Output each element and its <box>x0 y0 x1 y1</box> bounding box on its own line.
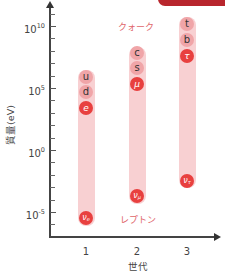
x-tick-label-2: 2 <box>130 246 144 257</box>
y-minor-tick <box>50 175 55 176</box>
x-axis-title: 世代 <box>128 259 148 273</box>
y-minor-tick <box>50 38 55 39</box>
y-axis-arrow-icon <box>46 1 54 8</box>
y-axis-title: 質量(eV) <box>3 102 17 148</box>
x-tick-label-1: 1 <box>79 246 93 257</box>
x-tick-label-3: 3 <box>180 246 194 257</box>
y-major-tick <box>50 150 56 151</box>
y-minor-tick <box>50 14 55 15</box>
y-minor-tick <box>50 76 55 77</box>
y-minor-tick <box>50 51 55 52</box>
particle-electron: e <box>79 101 93 115</box>
lepton-group-label: レプトン <box>120 213 156 226</box>
y-major-tick <box>50 26 56 27</box>
quark-group-label: クォーク <box>118 20 154 33</box>
y-minor-tick <box>50 187 55 188</box>
y-minor-tick <box>50 224 55 225</box>
particle-down-quark: d <box>79 85 93 99</box>
particle-charm-quark: c <box>130 46 144 60</box>
particle-tau: τ <box>180 49 194 63</box>
particle-strange-quark: s <box>130 61 144 75</box>
corner-title-badge <box>158 0 225 6</box>
x-axis-arrow-icon <box>214 233 221 241</box>
y-minor-tick <box>50 162 55 163</box>
particle-tau-neutrino: ντ <box>180 174 194 188</box>
y-minor-tick <box>50 63 55 64</box>
particle-muon-neutrino: νμ <box>130 189 144 203</box>
y-minor-tick <box>50 113 55 114</box>
y-minor-tick <box>50 100 55 101</box>
y-tick-label-1e-5: 10-5 <box>26 207 45 221</box>
particle-top-quark: t <box>180 17 194 31</box>
y-tick-label-1e0: 100 <box>28 145 45 159</box>
particle-muon: μ <box>130 77 144 91</box>
particle-up-quark: u <box>79 70 93 84</box>
y-axis-line <box>49 6 51 237</box>
particle-bottom-quark: b <box>180 33 194 47</box>
y-tick-label-1e5: 105 <box>28 83 45 97</box>
y-minor-tick <box>50 125 55 126</box>
y-minor-tick <box>50 138 55 139</box>
x-axis-line <box>49 236 216 238</box>
y-minor-tick <box>50 200 55 201</box>
y-major-tick <box>50 212 56 213</box>
y-tick-label-1e10: 1010 <box>24 21 45 35</box>
y-major-tick <box>50 88 56 89</box>
particle-electron-neutrino: νe <box>79 211 93 225</box>
